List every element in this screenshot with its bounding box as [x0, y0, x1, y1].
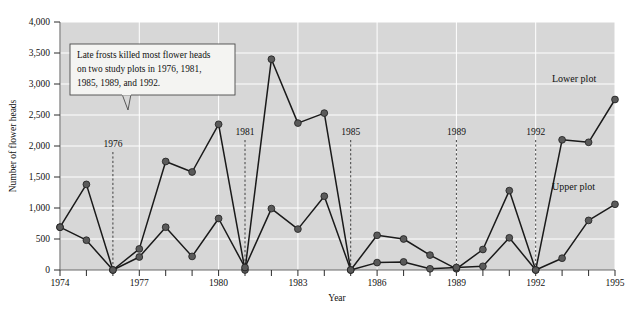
x-axis-title: Year	[328, 293, 346, 303]
y-axis-title: Number of flower heads	[8, 99, 18, 192]
callout-line-2: on two study plots in 1976, 1981,	[77, 64, 201, 74]
x-tick-label: 1983	[288, 278, 307, 288]
x-tick-label: 1974	[51, 278, 70, 288]
series-label-lower-plot: Lower plot	[552, 73, 596, 84]
y-tick-label: 1,000	[29, 203, 51, 213]
callout-line-3: 1985, 1989, and 1992.	[77, 78, 160, 88]
y-tick-label: 2,000	[29, 141, 51, 151]
event-label-1985: 1985	[341, 127, 360, 137]
y-tick-label: 1,500	[29, 172, 51, 182]
event-label-1976: 1976	[103, 139, 122, 149]
x-tick-label: 1995	[606, 278, 625, 288]
x-tick-label: 1989	[447, 278, 466, 288]
x-tick-label: 1980	[209, 278, 228, 288]
y-tick-label: 2,500	[29, 110, 51, 120]
y-tick-label: 3,500	[29, 48, 51, 58]
y-tick-label: 500	[36, 234, 51, 244]
y-tick-label: 3,000	[29, 79, 51, 89]
x-tick-label: 1986	[368, 278, 387, 288]
x-tick-label: 1977	[130, 278, 149, 288]
x-tick-label: 1992	[526, 278, 545, 288]
event-label-1989: 1989	[447, 127, 466, 137]
event-label-1992: 1992	[526, 127, 545, 137]
callout-line-1: Late frosts killed most flower heads	[77, 50, 211, 60]
series-label-upper-plot: Upper plot	[552, 181, 595, 192]
event-label-1981: 1981	[236, 127, 255, 137]
flower-heads-line-chart: 0 500 1,000 1,500 2,000 2,500 3,000 3,50…	[0, 0, 626, 315]
figure-container: 0 500 1,000 1,500 2,000 2,500 3,000 3,50…	[0, 0, 626, 315]
y-tick-label: 4,000	[29, 17, 51, 27]
y-tick-label: 0	[45, 265, 50, 275]
